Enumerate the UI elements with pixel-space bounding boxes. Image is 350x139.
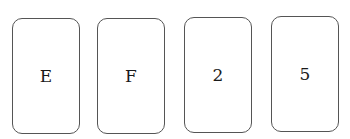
card-e[interactable]: E — [12, 18, 80, 134]
card-face-label: F — [125, 68, 137, 85]
card-face-label: 2 — [213, 67, 224, 84]
card-face-label: 5 — [300, 66, 311, 83]
card-face-label: E — [40, 68, 52, 85]
card-2[interactable]: 2 — [184, 17, 252, 133]
card-5[interactable]: 5 — [271, 16, 339, 132]
card-f[interactable]: F — [97, 18, 165, 134]
